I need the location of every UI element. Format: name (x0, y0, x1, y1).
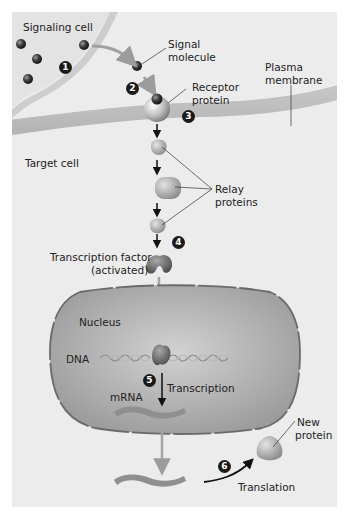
label-transcription-factor-2: (activated) (91, 264, 148, 276)
label-nucleus: Nucleus (79, 316, 121, 328)
step-3-badge: 3 (182, 110, 195, 123)
step-1-badge: 1 (59, 61, 72, 74)
label-transcription: Transcription (167, 382, 235, 394)
step-2-badge: 2 (126, 82, 139, 95)
signal-molecule (16, 39, 26, 49)
signal-molecule (23, 74, 33, 84)
label-target-cell: Target cell (25, 157, 79, 169)
label-new-protein-2: protein (295, 429, 332, 441)
relay-protein (150, 218, 166, 233)
signal-molecule (132, 61, 142, 71)
label-relay-proteins-2: proteins (215, 196, 258, 208)
label-relay-proteins-1: Relay (215, 183, 244, 195)
label-signal-molecule-2: molecule (168, 51, 216, 63)
step-4-badge: 4 (172, 236, 185, 249)
label-receptor-protein-1: Receptor (192, 81, 239, 93)
label-dna: DNA (66, 353, 89, 365)
label-receptor-protein-2: protein (192, 94, 229, 106)
label-plasma-membrane-1: Plasma (265, 61, 303, 73)
label-translation: Translation (238, 481, 295, 493)
label-new-protein-1: New (297, 416, 320, 428)
bound-signal-molecule (152, 94, 163, 105)
label-signaling-cell: Signaling cell (23, 21, 93, 33)
relay-protein (151, 139, 167, 155)
label-transcription-factor-1: Transcription factor (50, 251, 152, 263)
label-signal-molecule-1: Signal (168, 38, 200, 50)
label-mrna: mRNA (110, 391, 143, 403)
signal-molecule (32, 54, 42, 64)
relay-protein (155, 177, 181, 199)
label-plasma-membrane-2: membrane (265, 74, 322, 86)
step-6-badge: 6 (218, 460, 231, 473)
step-5-badge: 5 (143, 374, 156, 387)
signal-molecule (79, 40, 89, 50)
